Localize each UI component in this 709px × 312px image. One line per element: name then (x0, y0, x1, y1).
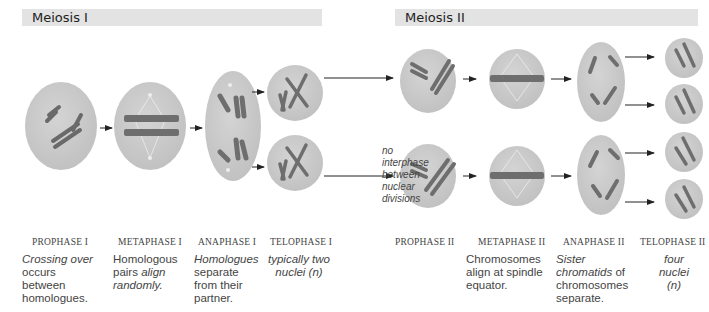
cell-prophase-1 (25, 82, 97, 170)
desc-metaphase-1: Homologous pairs align randomly. (113, 253, 183, 292)
desc-text: separate from their partner. (194, 266, 243, 304)
label-anaphase-1: ANAPHASE I (198, 237, 256, 247)
label-metaphase-2: METAPHASE II (478, 237, 545, 247)
note-line: nuclear (382, 181, 429, 193)
cell-telophase-2-1 (665, 38, 703, 78)
cell-metaphase-2-bottom (489, 146, 545, 206)
desc-text: Homologues (194, 253, 259, 265)
desc-text: Sister chromatids (556, 253, 612, 278)
desc-text: Crossing over (22, 253, 93, 265)
label-telophase-1: TELOPHASE I (270, 237, 332, 247)
cell-anaphase-2-top (577, 42, 625, 122)
cell-telophase-1-top (267, 65, 323, 121)
desc-metaphase-2: Chromosomes align at spindle equator. (466, 253, 546, 292)
cell-anaphase-1 (205, 71, 261, 181)
note-line: interphase (382, 157, 429, 169)
desc-text: Chromosomes align at spindle equator. (466, 253, 543, 291)
desc-telophase-1: typically two nuclei (n) (268, 253, 330, 279)
cell-anaphase-2-bottom (577, 135, 625, 215)
label-telophase-2: TELOPHASE II (640, 237, 705, 247)
desc-text: four nuclei (n) (659, 253, 689, 291)
desc-text: typically two nuclei (n) (268, 253, 330, 278)
label-prophase-1: PROPHASE I (32, 237, 88, 247)
desc-anaphase-2: Sister chromatids of chromosomes separat… (556, 253, 640, 305)
label-metaphase-1: METAPHASE I (118, 237, 182, 247)
cell-prophase-2-top (400, 49, 456, 113)
label-anaphase-2: ANAPHASE II (563, 237, 625, 247)
note-line: no (382, 145, 429, 157)
no-interphase-note: no interphase between nuclear divisions (382, 145, 429, 205)
desc-anaphase-1: Homologues separate from their partner. (194, 253, 264, 305)
cell-telophase-2-4 (665, 179, 703, 219)
note-line: between (382, 169, 429, 181)
desc-text: occurs between homologues. (22, 266, 88, 304)
cell-metaphase-1 (114, 82, 186, 170)
note-line: divisions (382, 193, 429, 205)
desc-telophase-2: four nuclei (n) (656, 253, 692, 292)
cell-telophase-2-3 (665, 132, 703, 172)
label-prophase-2: PROPHASE II (395, 237, 454, 247)
cell-telophase-1-bottom (267, 135, 323, 191)
cell-telophase-2-2 (665, 84, 703, 124)
cell-metaphase-2-top (489, 49, 545, 109)
desc-prophase-1: Crossing over occurs between homologues. (22, 253, 97, 305)
